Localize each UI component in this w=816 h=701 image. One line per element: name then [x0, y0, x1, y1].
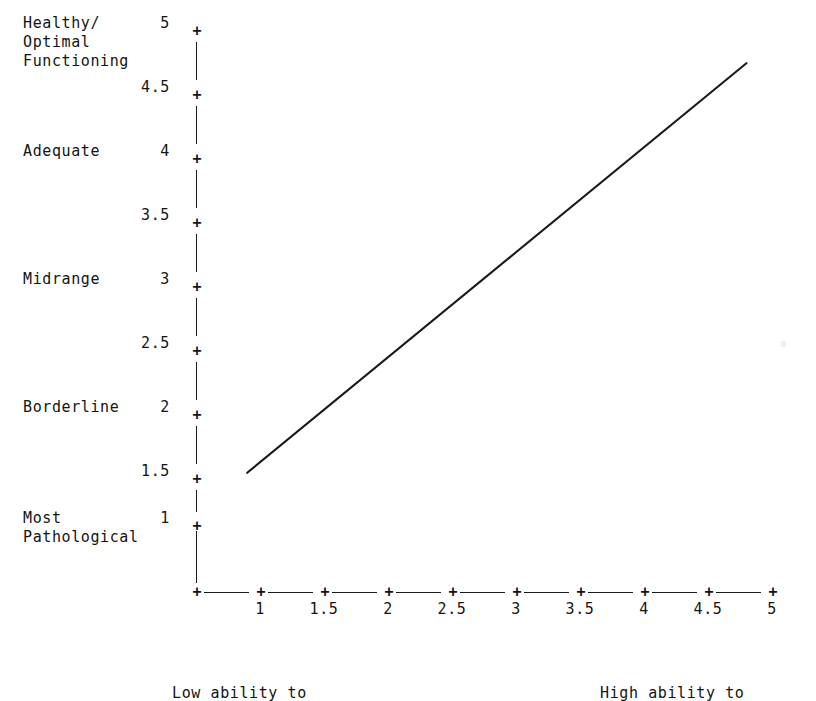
y-tick-label-4: 4 — [10, 142, 170, 161]
x-axis-tick-mark-1-5: + — [317, 585, 333, 600]
y-category-label-healthy-line2: Optimal — [23, 33, 90, 52]
caption-high-ability: High ability to resolve conflict — [600, 643, 754, 701]
y-axis-segment-6 — [196, 362, 198, 400]
x-axis-segment-7 — [588, 592, 633, 594]
y-tick-label-2: 2 — [10, 398, 170, 417]
y-axis-segment-2 — [196, 106, 198, 144]
y-axis-tick-mark-2: + — [189, 408, 205, 423]
x-axis-segment-5 — [460, 592, 505, 594]
x-tick-label-2: 2 — [358, 600, 418, 619]
x-axis-segment-4 — [396, 592, 441, 594]
y-tick-label-3-5: 3.5 — [10, 206, 170, 225]
x-axis-segment-8 — [652, 592, 697, 594]
y-axis-segment-5 — [196, 298, 198, 336]
y-tick-label-1: 1 — [10, 509, 170, 528]
y-axis-tick-mark-3: + — [189, 280, 205, 295]
y-axis-segment-7 — [196, 426, 198, 464]
x-tick-label-3: 3 — [486, 600, 546, 619]
y-axis-tick-mark-4: + — [189, 152, 205, 167]
y-axis-tick-mark-2-5: + — [189, 344, 205, 359]
y-category-label-most-line2: Pathological — [23, 528, 139, 547]
x-tick-label-1: 1 — [230, 600, 290, 619]
caption-low-ability: Low ability to resolve conflict — [172, 643, 326, 701]
x-axis-tick-mark-2: + — [381, 585, 397, 600]
scan-artifact — [781, 341, 786, 347]
y-axis-segment-4 — [196, 234, 198, 272]
y-axis-tick-mark-5: + — [189, 24, 205, 39]
x-axis-tick-mark-3-5: + — [573, 585, 589, 600]
x-axis-tick-mark-1: + — [253, 585, 269, 600]
y-tick-label-1-5: 1.5 — [10, 462, 170, 481]
y-tick-label-5: 5 — [10, 14, 170, 33]
y-axis-segment-1 — [196, 42, 198, 80]
x-tick-label-5: 5 — [742, 600, 802, 619]
x-axis-tick-mark-3: + — [509, 585, 525, 600]
x-axis-segment-6 — [524, 592, 569, 594]
x-tick-label-4: 4 — [614, 600, 674, 619]
x-axis-segment-1 — [204, 592, 249, 594]
x-axis-tick-mark-4: + — [637, 585, 653, 600]
y-tick-label-2-5: 2.5 — [10, 334, 170, 353]
chart-container: Healthy/ Optimal Functioning Adequate Mi… — [0, 0, 816, 701]
y-axis-segment-3 — [196, 170, 198, 208]
y-axis-tick-mark-4-5: + — [189, 88, 205, 103]
caption-high-line1: High ability to — [600, 683, 754, 701]
x-axis-tick-mark-4-5: + — [701, 585, 717, 600]
y-axis-segment-9 — [196, 531, 198, 583]
y-axis-tick-mark-1-5: + — [189, 472, 205, 487]
x-axis-tick-mark-5: + — [765, 585, 781, 600]
x-axis-origin-tick: + — [189, 585, 205, 600]
x-axis-segment-2 — [268, 592, 313, 594]
x-axis-tick-mark-2-5: + — [445, 585, 461, 600]
x-axis-segment-3 — [332, 592, 377, 594]
y-tick-label-4-5: 4.5 — [10, 78, 170, 97]
y-axis-tick-mark-3-5: + — [189, 216, 205, 231]
caption-low-line1: Low ability to — [172, 683, 326, 701]
x-axis-segment-9 — [716, 592, 761, 594]
y-category-label-healthy-line3: Functioning — [23, 52, 129, 71]
y-axis-segment-8 — [196, 490, 198, 512]
x-tick-label-3-5: 3.5 — [550, 600, 610, 619]
series-line-segment — [247, 63, 746, 473]
x-tick-label-4-5: 4.5 — [678, 600, 738, 619]
x-tick-label-1-5: 1.5 — [294, 600, 354, 619]
x-tick-label-2-5: 2.5 — [422, 600, 482, 619]
y-tick-label-3: 3 — [10, 270, 170, 289]
